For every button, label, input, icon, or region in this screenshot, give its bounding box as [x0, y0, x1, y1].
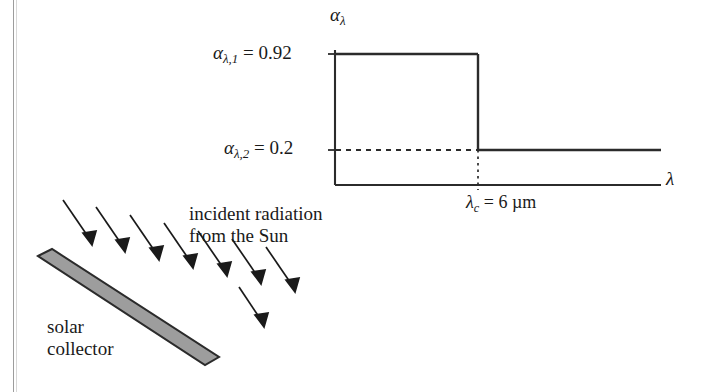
alpha1-subscript: λ,1 — [223, 51, 238, 66]
y-axis-label-symbol: α — [330, 4, 340, 25]
incident-radiation-line-2: from the Sun — [189, 225, 288, 246]
solar-collector-caption: solarcollector — [47, 316, 113, 361]
step-curve — [335, 54, 661, 150]
alpha1-value-label: αλ,1 = 0.92 — [213, 42, 292, 66]
alpha1-symbol: α — [213, 42, 223, 63]
cutoff-symbol: λ — [466, 192, 474, 212]
y-axis-label: αλ — [330, 4, 346, 28]
figure-canvas: αλ αλ,1 = 0.92 αλ,2 = 0.2 λ λc = 6 µm in… — [0, 0, 701, 392]
radiation-arrow — [96, 207, 129, 252]
solar-collector-line-2: collector — [47, 338, 113, 359]
radiation-arrow — [266, 247, 299, 292]
x-axis-label: λ — [666, 168, 674, 190]
alpha1-value: = 0.92 — [238, 42, 291, 63]
incident-radiation-line-1: incident radiation — [189, 203, 322, 224]
incident-radiation-caption: incident radiationfrom the Sun — [189, 203, 322, 248]
radiation-arrow — [239, 287, 268, 327]
alpha2-value-label: αλ,2 = 0.2 — [224, 137, 293, 161]
solar-collector-line-1: solar — [47, 316, 84, 337]
alpha2-value: = 0.2 — [249, 137, 293, 158]
alpha2-subscript: λ,2 — [234, 146, 249, 161]
radiation-arrow — [63, 200, 96, 245]
y-axis-label-subscript: λ — [340, 13, 346, 28]
plot-axes — [335, 50, 661, 185]
cutoff-value: = 6 µm — [479, 192, 536, 212]
radiation-arrow — [130, 215, 163, 260]
alpha2-symbol: α — [224, 137, 234, 158]
cutoff-wavelength-label: λc = 6 µm — [466, 192, 536, 215]
